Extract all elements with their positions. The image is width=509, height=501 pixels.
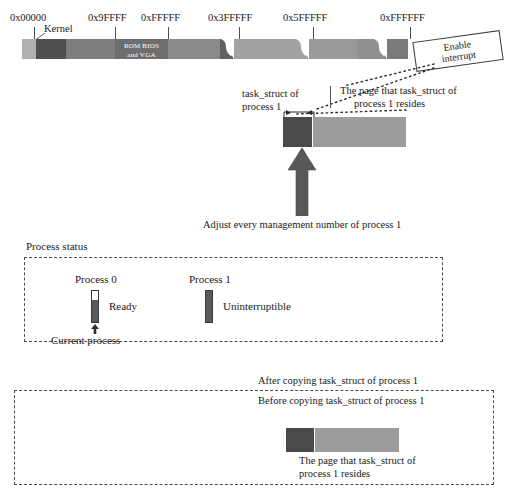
bottom-page-remainder-region — [315, 428, 399, 452]
process-1-state-bar — [205, 290, 213, 323]
tick-0x5FFFFF — [313, 27, 314, 39]
process-status-panel: Process 0 Ready Current process Process … — [24, 257, 443, 342]
page-resides-caption: The page that task_struct of process 1 r… — [340, 85, 457, 110]
process-0-state-bar — [91, 290, 99, 323]
memory-segment-kernel — [36, 39, 66, 59]
rom-label-line-1: ROM BIOS — [124, 42, 159, 50]
address-label-0x3FFFFF: 0x3FFFFF — [208, 12, 252, 23]
adjust-management-caption: Adjust every management number of proces… — [203, 219, 401, 232]
task-struct-page-block — [283, 117, 406, 147]
page-remainder-region — [313, 117, 406, 147]
address-label-0xFFFFF: 0xFFFFF — [141, 12, 180, 23]
memory-segment-low — [22, 39, 36, 59]
break-mark-2 — [296, 38, 309, 60]
memory-segment-high-b — [385, 39, 408, 59]
process-status-title: Process status — [26, 240, 87, 253]
task-struct-label-line-2: process 1 — [242, 101, 281, 112]
page-resides-line-2: process 1 resides — [354, 98, 425, 111]
page-resides-line-1: The page that task_struct of — [340, 85, 457, 96]
bottom-page-line-2: process 1 resides — [299, 468, 370, 479]
process-0-state-fill — [92, 300, 98, 322]
adjust-arrow-icon — [287, 148, 317, 216]
bottom-task-struct-region — [286, 428, 314, 452]
address-label-0xFFFFFF: 0xFFFFFF — [380, 12, 425, 23]
tick-0xFFFFFF — [410, 27, 411, 39]
break-mark-3 — [374, 38, 387, 60]
address-label-0x5FFFFF: 0x5FFFFF — [283, 12, 327, 23]
process-1-state-text: Uninterruptible — [223, 300, 291, 312]
task-struct-label-line-1: task_struct of — [242, 88, 299, 99]
process-1-state-fill — [206, 291, 212, 322]
break-mark-1 — [221, 38, 234, 60]
memory-segment-extended — [168, 39, 220, 59]
bottom-page-line-1: The page that task_struct of — [299, 455, 416, 466]
rom-label-line-2: and VGA — [127, 51, 155, 59]
caption-divider — [330, 86, 331, 108]
bottom-page-resides-caption: The page that task_struct of process 1 r… — [299, 455, 416, 480]
task-struct-region — [283, 117, 312, 147]
memory-segment-user-low — [66, 39, 115, 59]
before-copying-label: Before copying task_struct of process 1 — [258, 395, 425, 408]
address-label-0x9FFFF: 0x9FFFF — [88, 12, 126, 23]
tick-0x3FFFFF — [239, 27, 240, 39]
tick-0xFFFFF — [168, 27, 169, 39]
after-copying-label: After copying task_struct of process 1 — [258, 375, 418, 388]
process-0-label: Process 0 — [75, 273, 117, 285]
process-0-state-text: Ready — [109, 300, 137, 312]
memory-bar: ROM BIOS and VGA — [22, 39, 408, 59]
process-1-label: Process 1 — [189, 273, 231, 285]
bottom-task-struct-page-block — [286, 428, 399, 452]
rom-bios-vga-label: ROM BIOS and VGA — [115, 42, 168, 59]
address-label-0x00000: 0x00000 — [10, 12, 46, 23]
memory-segment-mid-b — [308, 39, 357, 59]
current-process-annotation: Current process — [51, 334, 120, 346]
tick-0x9FFFF — [115, 27, 116, 39]
